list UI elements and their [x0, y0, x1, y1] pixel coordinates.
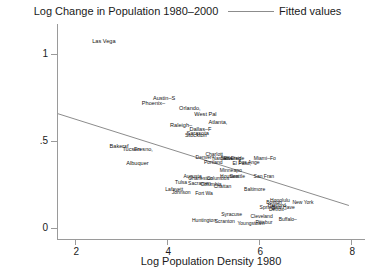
data-point-label: New York: [292, 200, 313, 205]
data-point-label: El Paso,: [232, 161, 251, 166]
data-point-label: Las Vega: [92, 39, 115, 44]
y-axis-tick: 1: [51, 54, 57, 55]
y-axis-tick: .5: [51, 141, 57, 142]
data-point-label: Detroit–: [269, 206, 287, 211]
data-point-label: Baltimore: [244, 186, 265, 191]
data-point-label: San Fran: [254, 173, 275, 178]
data-point-label: Pittsbur: [255, 220, 272, 225]
data-point-label: Scranton: [215, 218, 235, 223]
x-axis-line: [57, 239, 365, 240]
plot-area: 0.51 2468 Las VegaAustin–SPhoenix–Orland…: [57, 24, 365, 240]
chart-legend: Fitted values: [228, 5, 341, 17]
data-point-label: Portland: [204, 159, 223, 164]
data-point-label: Tulsa: [175, 180, 187, 185]
y-axis-tick-label: 1: [42, 48, 48, 59]
chart-title: Log Change in Population 1980–2000: [0, 5, 252, 17]
x-axis-tick: 4: [167, 240, 168, 245]
data-point-label: Atlanta,: [208, 120, 227, 125]
data-point-label: Johnson: [172, 189, 191, 194]
data-point-label: Phoenix–: [142, 101, 165, 106]
data-point-label: Stockton: [185, 132, 207, 137]
data-point-label: Fresno,: [134, 147, 153, 152]
x-axis-title: Log Population Density 1980: [57, 255, 365, 267]
fitted-values-legend-label: Fitted values: [279, 5, 341, 17]
x-axis-tick: 6: [259, 240, 260, 245]
scatter-plot: Log Change in Population 1980–2000 Fitte…: [0, 0, 380, 275]
fitted-values-legend-line: [228, 11, 274, 12]
data-point-label: West Pal: [194, 111, 216, 116]
y-axis-tick-label: .5: [40, 135, 48, 146]
data-point-label: Cleveland: [250, 213, 272, 218]
data-point-label: Huntington: [192, 218, 216, 223]
data-point-label: Albuquer: [126, 161, 148, 166]
y-axis-line: [57, 24, 58, 240]
y-axis-tick-label: 0: [42, 222, 48, 233]
data-point-label: Seattle: [229, 173, 245, 178]
data-point-label: Fort Wa: [195, 191, 213, 196]
data-point-label: Syracuse: [221, 211, 242, 216]
data-point-label: Buffalo–: [279, 217, 297, 222]
fitted-values-line: [57, 24, 365, 240]
y-axis-tick: 0: [51, 228, 57, 229]
x-axis-tick: 8: [351, 240, 352, 245]
data-point-label: Chattan: [214, 184, 232, 189]
x-axis-tick: 2: [75, 240, 76, 245]
